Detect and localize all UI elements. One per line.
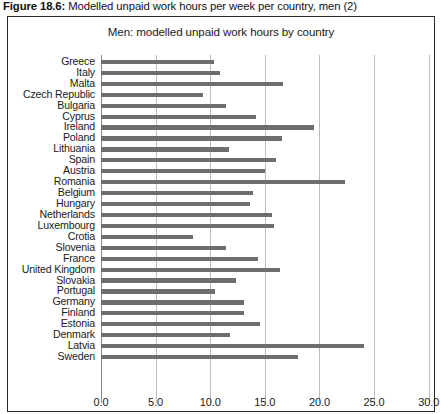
bar-cyprus — [101, 115, 256, 119]
x-tick-20.0: 20.0 — [309, 395, 330, 409]
bar-germany — [101, 300, 244, 304]
bar-united-kingdom — [101, 268, 280, 272]
bar-portugal — [101, 289, 215, 293]
bar-czech-republic — [101, 93, 203, 97]
bar-row — [101, 231, 429, 242]
bar-finland — [101, 311, 244, 315]
bar-row — [101, 210, 429, 221]
category-label-bulgaria: Bulgaria — [57, 100, 95, 111]
bar-slovakia — [101, 278, 236, 282]
bar-row — [101, 78, 429, 89]
bar-row — [101, 319, 429, 330]
x-tick-30.0: 30.0 — [418, 395, 439, 409]
bar-row — [101, 286, 429, 297]
bar-italy — [101, 71, 220, 75]
category-label-united-kingdom: United Kingdom — [22, 264, 95, 275]
bar-row — [101, 111, 429, 122]
bars-layer — [101, 55, 429, 403]
bar-row — [101, 155, 429, 166]
bar-row — [101, 199, 429, 210]
bar-poland — [101, 136, 282, 140]
bar-row — [101, 220, 429, 231]
chart-title: Men: modelled unpaid work hours by count… — [8, 25, 434, 39]
x-tick-15.0: 15.0 — [254, 395, 275, 409]
bar-austria — [101, 169, 265, 173]
x-tick-5.0: 5.0 — [148, 395, 163, 409]
bar-france — [101, 257, 258, 261]
figure-caption-text: Modelled unpaid work hours per week per … — [65, 0, 357, 12]
gridline-30.0 — [429, 55, 430, 403]
category-label-slovenia: Slovenia — [56, 242, 95, 253]
chart-frame: Men: modelled unpaid work hours by count… — [7, 16, 435, 412]
bar-row — [101, 166, 429, 177]
x-tick-10.0: 10.0 — [200, 395, 221, 409]
bar-lithuania — [101, 147, 229, 151]
bar-hungary — [101, 202, 250, 206]
bar-slovenia — [101, 246, 226, 250]
bar-bulgaria — [101, 104, 226, 108]
x-tick-25.0: 25.0 — [364, 395, 385, 409]
bar-row — [101, 352, 429, 363]
bar-row — [101, 308, 429, 319]
bar-belgium — [101, 191, 253, 195]
bar-row — [101, 89, 429, 100]
bar-row — [101, 253, 429, 264]
bar-denmark — [101, 333, 230, 337]
bar-row — [101, 275, 429, 286]
bar-row — [101, 100, 429, 111]
category-axis-labels: GreeceItalyMaltaCzech RepublicBulgariaCy… — [8, 55, 99, 403]
bar-row — [101, 122, 429, 133]
bar-row — [101, 264, 429, 275]
bar-row — [101, 297, 429, 308]
bar-row — [101, 144, 429, 155]
bar-estonia — [101, 322, 260, 326]
bar-row — [101, 341, 429, 352]
bar-row — [101, 188, 429, 199]
bar-ireland — [101, 125, 314, 129]
bar-romania — [101, 180, 345, 184]
bar-crotia — [101, 235, 193, 239]
category-label-czech-republic: Czech Republic — [23, 89, 95, 100]
plot-area — [101, 55, 429, 403]
bar-malta — [101, 82, 283, 86]
bar-luxembourg — [101, 224, 274, 228]
bar-spain — [101, 158, 276, 162]
bar-latvia — [101, 344, 364, 348]
x-axis-tick-labels: 0.05.010.015.020.025.030.0 — [101, 395, 441, 411]
x-tick-0.0: 0.0 — [94, 395, 109, 409]
bar-sweden — [101, 355, 298, 359]
bar-row — [101, 242, 429, 253]
category-label-sweden: Sweden — [58, 351, 95, 362]
bar-row — [101, 133, 429, 144]
bar-row — [101, 177, 429, 188]
bar-row — [101, 67, 429, 78]
bar-row — [101, 57, 429, 68]
figure-caption: Figure 18.6: Modelled unpaid work hours … — [3, 0, 441, 14]
bar-greece — [101, 60, 214, 64]
category-label-france: France — [63, 253, 95, 264]
bar-row — [101, 330, 429, 341]
bar-netherlands — [101, 213, 272, 217]
figure-caption-label: Figure 18.6: — [3, 0, 65, 12]
